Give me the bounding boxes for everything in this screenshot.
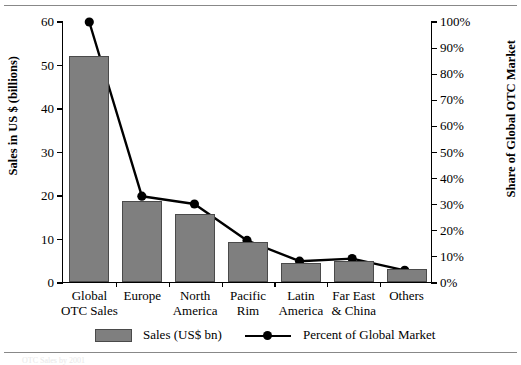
y-tick-left: [57, 152, 63, 153]
y-tick-left: [57, 282, 63, 283]
y-tick-label-right: 50%: [440, 146, 464, 159]
x-tick: [327, 282, 328, 287]
y-tick-left: [57, 65, 63, 66]
y-tick-right: [431, 230, 437, 231]
plot-area-wrapper: Sales in US $ (billions) Share of Global…: [0, 8, 521, 308]
y-tick-label-left: 20: [41, 189, 54, 202]
percent-line-marker: [137, 192, 146, 201]
bar: [281, 263, 321, 282]
percent-line-marker: [85, 17, 94, 26]
y-tick-label-right: 40%: [440, 172, 464, 185]
y-tick-label-right: 100%: [440, 15, 470, 28]
y-tick-label-right: 90%: [440, 41, 464, 54]
y-tick-label-right: 10%: [440, 250, 464, 263]
x-tick: [274, 282, 275, 287]
y-tick-left: [57, 108, 63, 109]
y-tick-right: [431, 178, 437, 179]
x-category-label: Others: [374, 289, 439, 304]
y-tick-label-right: 0%: [440, 276, 457, 289]
chart-figure: Sales in US $ (billions) Share of Global…: [0, 0, 521, 365]
y-tick-left: [57, 239, 63, 240]
y-tick-right: [431, 21, 437, 22]
bar: [122, 201, 162, 282]
bar: [175, 214, 215, 282]
legend-line-dot-icon: [245, 329, 291, 342]
y-tick-label-left: 0: [48, 276, 55, 289]
x-tick: [169, 282, 170, 287]
chart-legend: Sales (US$ bn) Percent of Global Market: [0, 327, 521, 349]
y-tick-label-right: 20%: [440, 224, 464, 237]
bar: [387, 269, 427, 282]
bar: [69, 56, 109, 282]
y-tick-left: [57, 21, 63, 22]
legend-swatch-icon: [95, 329, 132, 342]
footnote: OTC Sales by 2001: [22, 356, 85, 365]
y-tick-left: [57, 195, 63, 196]
bottom-divider: [4, 352, 517, 353]
y-axis-title-right: Share of Global OTC Market: [504, 40, 519, 197]
y-tick-right: [431, 74, 437, 75]
x-tick: [222, 282, 223, 287]
x-tick: [116, 282, 117, 287]
legend-label-sales: Sales (US$ bn): [143, 327, 222, 343]
y-tick-label-left: 10: [41, 233, 54, 246]
y-tick-right: [431, 48, 437, 49]
y-tick-label-left: 60: [41, 15, 54, 28]
y-tick-right: [431, 126, 437, 127]
x-tick: [380, 282, 381, 287]
y-tick-label-left: 50: [41, 59, 54, 72]
legend-label-percent: Percent of Global Market: [303, 327, 435, 343]
y-tick-right: [431, 100, 437, 101]
y-tick-label-right: 80%: [440, 67, 464, 80]
plot-area: 01020304050600%10%20%30%40%50%60%70%80%9…: [62, 22, 432, 283]
y-axis-title-left: Sales in US $ (billions): [6, 56, 21, 175]
y-tick-label-right: 60%: [440, 119, 464, 132]
legend-item-sales: Sales (US$ bn): [95, 327, 222, 343]
y-tick-label-right: 70%: [440, 93, 464, 106]
y-tick-label-left: 30: [41, 146, 54, 159]
percent-line-marker: [190, 199, 199, 208]
legend-item-percent: Percent of Global Market: [245, 327, 435, 343]
y-tick-right: [431, 256, 437, 257]
y-tick-right: [431, 152, 437, 153]
y-tick-right: [431, 204, 437, 205]
bar: [334, 261, 374, 282]
y-tick-label-left: 40: [41, 102, 54, 115]
y-tick-label-right: 30%: [440, 198, 464, 211]
bar: [228, 242, 268, 282]
y-tick-right: [431, 282, 437, 283]
top-divider: [4, 5, 517, 6]
